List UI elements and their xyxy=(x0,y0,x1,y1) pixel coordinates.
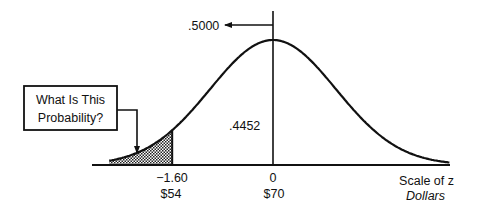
mean-dollar-label: $70 xyxy=(264,187,285,201)
question-line-2: Probability? xyxy=(38,111,103,125)
question-connector-arrow xyxy=(117,110,137,153)
cutoff-z-label: −1.60 xyxy=(156,171,188,185)
z-scale-label: Scale of z xyxy=(399,174,454,188)
cutoff-dollar-label: $54 xyxy=(161,187,182,201)
normal-curve-diagram: .5000 .4452 What Is This Probability? −1… xyxy=(0,0,482,214)
between-area-label: .4452 xyxy=(229,119,260,133)
mean-z-label: 0 xyxy=(270,171,277,185)
question-line-1: What Is This xyxy=(36,93,105,107)
half-area-label: .5000 xyxy=(188,19,219,33)
dollars-scale-label: Dollars xyxy=(406,189,445,203)
